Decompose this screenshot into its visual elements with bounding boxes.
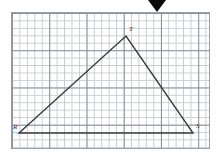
vertex-label-s: S bbox=[196, 123, 200, 130]
triangle-shape bbox=[19, 36, 193, 133]
figure-canvas: R T S bbox=[0, 0, 216, 158]
vertex-label-r: R bbox=[13, 124, 17, 131]
vertex-label-t: T bbox=[129, 26, 133, 33]
triangle-figure bbox=[0, 0, 216, 158]
